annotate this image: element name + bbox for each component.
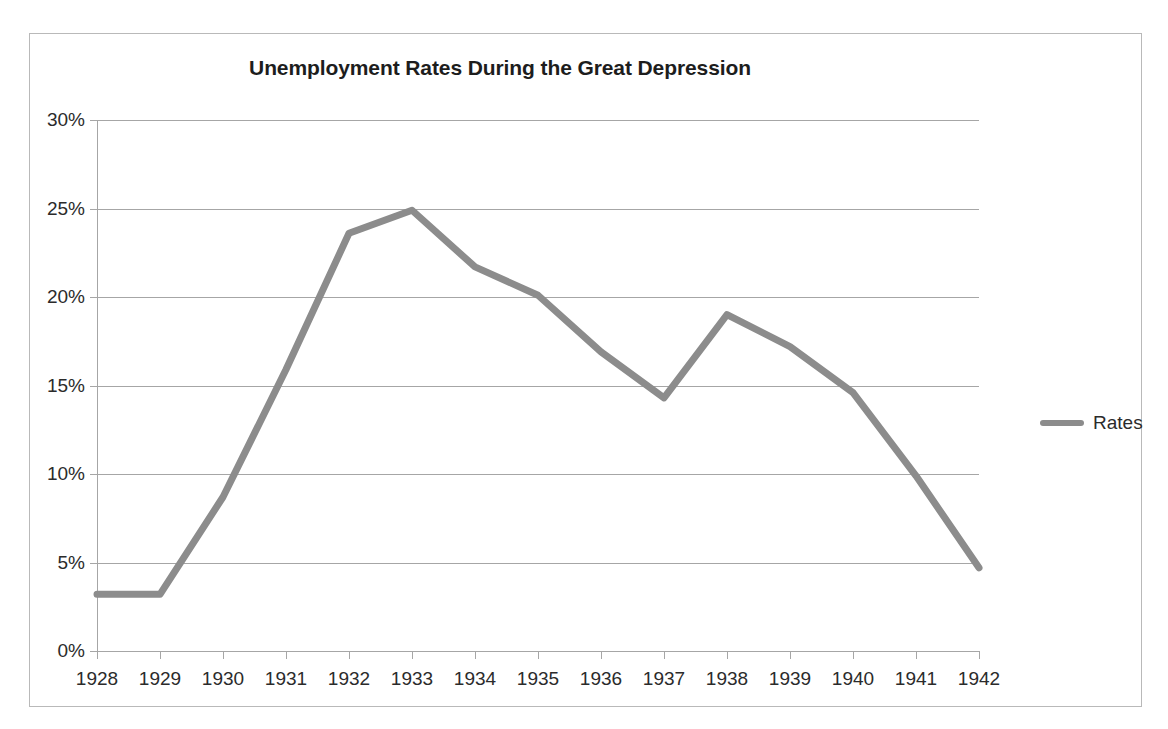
chart-title: Unemployment Rates During the Great Depr… bbox=[30, 56, 970, 80]
x-axis-tick bbox=[538, 651, 539, 659]
x-axis-tick bbox=[916, 651, 917, 659]
x-axis-tick-label: 1932 bbox=[328, 668, 370, 690]
series-line-rates bbox=[97, 120, 979, 651]
y-axis-tick bbox=[90, 209, 97, 210]
y-axis-tick bbox=[90, 474, 97, 475]
plot-area: 0%5%10%15%20%25%30% 19281929193019311932… bbox=[97, 120, 979, 651]
x-axis-tick bbox=[664, 651, 665, 659]
x-axis-tick bbox=[727, 651, 728, 659]
y-axis-tick-label: 30% bbox=[47, 109, 85, 131]
y-axis-tick-label: 0% bbox=[58, 640, 85, 662]
legend-swatch-rates bbox=[1040, 420, 1084, 426]
x-axis-tick-label: 1938 bbox=[706, 668, 748, 690]
y-axis-tick bbox=[90, 651, 97, 652]
legend-label-rates: Rates bbox=[1093, 412, 1143, 434]
x-axis-tick-label: 1937 bbox=[643, 668, 685, 690]
x-axis-tick-label: 1940 bbox=[832, 668, 874, 690]
chart-frame: Unemployment Rates During the Great Depr… bbox=[29, 33, 1142, 707]
x-axis-tick bbox=[979, 651, 980, 659]
x-axis-tick-label: 1941 bbox=[895, 668, 937, 690]
x-axis-tick bbox=[790, 651, 791, 659]
x-axis-tick-label: 1933 bbox=[391, 668, 433, 690]
y-axis-tick bbox=[90, 120, 97, 121]
x-axis-tick bbox=[475, 651, 476, 659]
series-polyline bbox=[97, 210, 979, 594]
y-axis-tick-label: 5% bbox=[58, 552, 85, 574]
x-axis-tick bbox=[286, 651, 287, 659]
y-axis-tick-label: 20% bbox=[47, 286, 85, 308]
x-axis-tick bbox=[601, 651, 602, 659]
y-axis-tick-label: 25% bbox=[47, 198, 85, 220]
x-axis-tick-label: 1931 bbox=[265, 668, 307, 690]
x-axis-tick-label: 1936 bbox=[580, 668, 622, 690]
x-axis-tick bbox=[223, 651, 224, 659]
x-axis-tick-label: 1935 bbox=[517, 668, 559, 690]
x-axis-tick-label: 1929 bbox=[139, 668, 181, 690]
x-axis-tick bbox=[160, 651, 161, 659]
chart-legend: Rates bbox=[1040, 412, 1143, 434]
x-axis-tick bbox=[412, 651, 413, 659]
x-axis-tick-label: 1939 bbox=[769, 668, 811, 690]
y-axis-tick-label: 10% bbox=[47, 463, 85, 485]
y-axis-tick bbox=[90, 297, 97, 298]
x-axis-tick-label: 1930 bbox=[202, 668, 244, 690]
y-axis-tick bbox=[90, 386, 97, 387]
y-axis-tick-label: 15% bbox=[47, 375, 85, 397]
x-axis-tick-label: 1942 bbox=[958, 668, 1000, 690]
x-axis-tick-label: 1934 bbox=[454, 668, 496, 690]
y-axis-tick bbox=[90, 563, 97, 564]
x-axis-tick bbox=[349, 651, 350, 659]
x-axis-tick-label: 1928 bbox=[76, 668, 118, 690]
x-axis-tick bbox=[853, 651, 854, 659]
x-axis-tick bbox=[97, 651, 98, 659]
